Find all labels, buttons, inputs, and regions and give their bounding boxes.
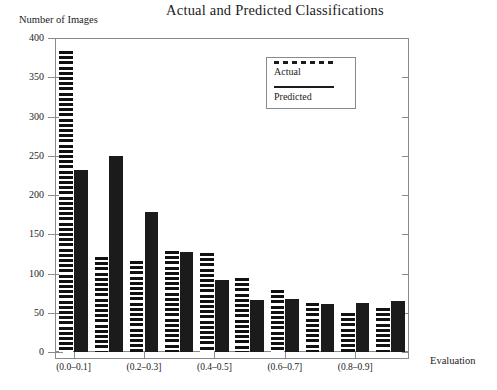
x-axis-tick-label: (0.8–0.9]: [310, 362, 400, 372]
bar-actual: [165, 251, 179, 352]
bar-actual: [341, 313, 355, 352]
bar-actual: [200, 253, 214, 352]
x-axis-tick: [355, 352, 356, 359]
y-axis-tick-label: 200: [4, 189, 44, 200]
x-axis-tick: [285, 352, 286, 359]
bar-predicted: [74, 170, 88, 352]
bar-predicted: [109, 156, 123, 352]
y-axis-tick: [48, 156, 56, 157]
bar-predicted: [250, 300, 264, 352]
y-axis-tick: [48, 38, 56, 39]
y-axis-tick: [48, 274, 56, 275]
y-axis-tick-inner: [56, 352, 63, 353]
bar-predicted: [356, 303, 370, 352]
legend-item-predicted: Predicted: [274, 85, 352, 103]
y-axis-tick-label: 150: [4, 228, 44, 239]
bar-predicted: [391, 301, 405, 352]
y-axis-tick-label: 100: [4, 268, 44, 279]
bar-actual: [95, 257, 109, 352]
bar-actual: [59, 51, 73, 352]
legend-label-predicted: Predicted: [274, 91, 352, 103]
y-axis-tick-label: 250: [4, 150, 44, 161]
y-axis-tick-label: 50: [4, 307, 44, 318]
bar-predicted: [215, 280, 229, 352]
legend-label-actual: Actual: [274, 66, 352, 78]
y-axis-tick-label: 0: [4, 346, 44, 357]
bar-actual: [306, 303, 320, 352]
solid-line-icon: [274, 86, 334, 88]
legend: Actual Predicted: [266, 57, 356, 109]
y-axis-tick-label: 350: [4, 71, 44, 82]
x-axis-tick: [74, 352, 75, 359]
bar-predicted: [145, 212, 159, 352]
y-axis-tick: [48, 313, 56, 314]
x-axis-right-cap: [408, 352, 409, 359]
bar-predicted: [180, 252, 194, 352]
chart-container: Actual and Predicted Classifications Num…: [0, 0, 497, 390]
bar-actual: [376, 308, 390, 352]
x-axis-tick: [144, 352, 145, 359]
legend-item-actual: Actual: [274, 61, 352, 78]
bar-predicted: [321, 304, 335, 353]
x-axis-tick: [214, 352, 215, 359]
x-axis-left-cap: [55, 352, 56, 359]
y-axis-tick: [48, 117, 56, 118]
y-axis-tick: [48, 77, 56, 78]
bar-predicted: [285, 299, 299, 352]
bar-actual: [130, 261, 144, 352]
bar-actual: [235, 278, 249, 352]
y-axis-tick: [48, 234, 56, 235]
y-axis-tick-label: 400: [4, 32, 44, 43]
y-axis-tick-label: 300: [4, 111, 44, 122]
dashed-line-icon: [274, 61, 334, 64]
bar-actual: [271, 290, 285, 352]
y-axis-tick: [48, 195, 56, 196]
